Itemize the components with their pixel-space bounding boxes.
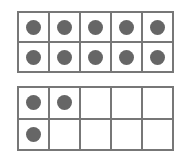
- frame-cell: [111, 42, 142, 72]
- counter-dot-icon: [88, 20, 103, 35]
- counter-dot-icon: [57, 50, 72, 65]
- frame-cell: [18, 12, 49, 42]
- frame-cell: [49, 119, 80, 151]
- counter-dot-icon: [26, 20, 41, 35]
- counter-dot-icon: [57, 95, 72, 110]
- frame-cell: [142, 87, 173, 119]
- counter-dot-icon: [88, 50, 103, 65]
- counter-dot-icon: [26, 127, 41, 142]
- frame-cell: [111, 119, 142, 151]
- frame-cell: [18, 119, 49, 151]
- frame-cell: [142, 119, 173, 151]
- frame-cell: [49, 87, 80, 119]
- frame-cell: [142, 42, 173, 72]
- counter-dot-icon: [119, 20, 134, 35]
- frame-cell: [142, 12, 173, 42]
- counter-dot-icon: [119, 50, 134, 65]
- counter-dot-icon: [150, 20, 165, 35]
- top-ten-frame: [17, 11, 174, 73]
- frame-cell: [111, 12, 142, 42]
- frame-cell: [80, 42, 111, 72]
- counter-dot-icon: [26, 95, 41, 110]
- frame-cell: [49, 42, 80, 72]
- frame-cell: [80, 87, 111, 119]
- frame-cell: [111, 87, 142, 119]
- frame-cell: [18, 42, 49, 72]
- frame-cell: [80, 119, 111, 151]
- counter-dot-icon: [150, 50, 165, 65]
- frame-cell: [80, 12, 111, 42]
- counter-dot-icon: [26, 50, 41, 65]
- counter-dot-icon: [57, 20, 72, 35]
- frame-cell: [49, 12, 80, 42]
- frame-cell: [18, 87, 49, 119]
- bottom-ten-frame: [17, 86, 174, 151]
